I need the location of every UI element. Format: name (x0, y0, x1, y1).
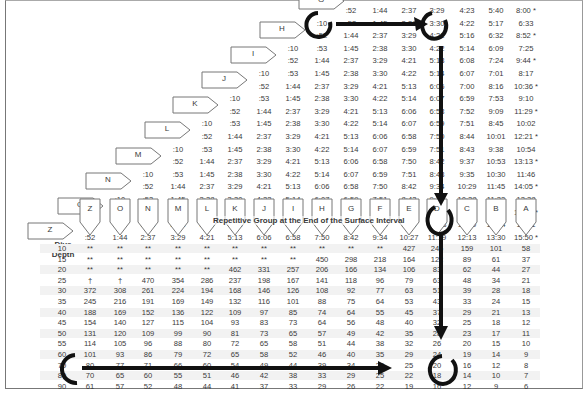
residual-time-cell: 21 (511, 276, 541, 285)
residual-time-cell: 470 (133, 276, 163, 285)
residual-time-cell: ** (249, 244, 279, 253)
residual-time-cell: 427 (394, 244, 424, 253)
residual-time-cell: ** (278, 255, 308, 264)
surface-interval-cell: 5:13 (420, 56, 454, 65)
surface-interval-cell: 7:50 (420, 132, 454, 141)
residual-time-cell: 14 (481, 350, 511, 359)
residual-time-cell: 52 (278, 350, 308, 359)
residual-time-cell: ** (163, 244, 193, 253)
surface-interval-cell: 6:07 (420, 94, 454, 103)
surface-interval-cell: 8:45 (479, 119, 513, 128)
residual-time-cell: ** (163, 265, 193, 274)
surface-interval-cell: 7:51 (420, 145, 454, 154)
residual-time-cell: 48 (163, 382, 193, 391)
residual-time-cell: 450 (307, 255, 337, 264)
column-header-label: D (426, 204, 448, 213)
residual-time-cell: 237 (220, 276, 250, 285)
surface-interval-cell: 6:09 (479, 44, 513, 53)
residual-time-cell: 64 (336, 308, 366, 317)
column-header-z: Z (79, 198, 101, 236)
residual-time-cell: 9 (481, 382, 511, 391)
residual-time-cell: 29 (394, 350, 424, 359)
group-tag-label: G (298, 0, 344, 4)
residual-time-cell: † (105, 276, 135, 285)
residual-time-cell: 286 (192, 276, 222, 285)
column-header-c: C (456, 198, 478, 236)
surface-interval-cell: 10:02 (509, 119, 543, 128)
residual-time-cell: 35 (365, 350, 395, 359)
residual-time-cell: 93 (105, 350, 135, 359)
residual-time-cell: 83 (422, 265, 452, 274)
residual-time-cell: 12 (452, 382, 482, 391)
residual-time-cell: 9 (511, 350, 541, 359)
residual-time-cell: 34 (336, 361, 366, 370)
residual-time-cell: 99 (163, 329, 193, 338)
residual-time-cell: 257 (278, 265, 308, 274)
surface-interval-cell: 11:46 (509, 170, 543, 179)
surface-interval-cell: 7:53 (479, 94, 513, 103)
residual-time-cell: 63 (422, 276, 452, 285)
residual-time-cell: 51 (422, 286, 452, 295)
residual-time-cell: 72 (192, 350, 222, 359)
residual-time-cell: 24 (422, 350, 452, 359)
residual-time-cell: 43 (422, 297, 452, 306)
column-header-label: A (515, 204, 537, 213)
residual-time-cell: ** (75, 265, 105, 274)
residual-time-cell: 14 (452, 371, 482, 380)
surface-interval-cell: 6:58 (420, 107, 454, 116)
residual-time-cell: 26 (422, 339, 452, 348)
residual-time-cell: 86 (133, 350, 163, 359)
residual-time-cell: 83 (249, 318, 279, 327)
residual-time-cell: 224 (163, 286, 193, 295)
surface-interval-cell: 7:01 (479, 69, 513, 78)
column-header-o: O (109, 198, 131, 236)
residual-time-cell: ** (75, 244, 105, 253)
residual-time-cell: 66 (163, 361, 193, 370)
surface-interval-cell: 12:21 * (509, 132, 543, 141)
depth-cell: 30 (47, 286, 77, 295)
surface-interval-cell: 8:43 (420, 170, 454, 179)
residual-time-cell: 114 (75, 339, 105, 348)
depth-cell: 15 (47, 255, 77, 264)
residual-time-cell: 104 (192, 318, 222, 327)
group-tag-l: L (144, 121, 190, 137)
residual-time-cell: 8 (511, 361, 541, 370)
surface-interval-cell: :52 (131, 182, 165, 191)
surface-interval-cell: 4:22 (420, 44, 454, 53)
residual-time-cell: 109 (133, 329, 163, 338)
residual-time-cell: 168 (220, 286, 250, 295)
residual-time-cell: 55 (365, 308, 395, 317)
residual-time-cell: 188 (75, 308, 105, 317)
residual-time-cell: 28 (422, 329, 452, 338)
group-tag-n: N (85, 172, 131, 188)
residual-time-cell: 63 (394, 286, 424, 295)
group-tag-h: H (259, 21, 305, 37)
residual-time-cell: 20 (422, 361, 452, 370)
residual-time-cell: 58 (249, 350, 279, 359)
surface-interval-cell: 5:17 (479, 19, 513, 28)
group-tag-label: Z (27, 225, 73, 234)
residual-time-cell: † (75, 276, 105, 285)
column-header-label: J (253, 204, 275, 213)
residual-time-cell: 81 (220, 329, 250, 338)
residual-time-cell: 70 (75, 371, 105, 380)
residual-time-cell: ** (336, 244, 366, 253)
surface-interval-cell: 10:36 * (509, 82, 543, 91)
residual-time-cell: 7 (511, 371, 541, 380)
residual-time-cell: 44 (481, 265, 511, 274)
residual-time-cell: 245 (75, 297, 105, 306)
residual-time-cell: 28 (481, 286, 511, 295)
residual-time-cell: 166 (336, 265, 366, 274)
residual-time-cell: 49 (249, 361, 279, 370)
residual-time-cell: 79 (394, 276, 424, 285)
surface-interval-cell: 14:05 * (509, 182, 543, 191)
column-header-d: D (426, 198, 448, 236)
residual-time-cell: ** (163, 255, 193, 264)
residual-time-cell: 42 (249, 371, 279, 380)
group-tag-label: K (172, 99, 218, 108)
residual-time-cell: 62 (452, 265, 482, 274)
depth-cell: 50 (47, 329, 77, 338)
residual-time-cell: 122 (422, 255, 452, 264)
surface-interval-cell: 4:21 (420, 31, 454, 40)
group-tag-label: I (230, 49, 276, 58)
